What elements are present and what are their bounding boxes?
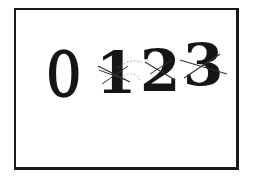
dotted-connector bbox=[118, 61, 142, 68]
strike-line-3b bbox=[184, 54, 220, 78]
strike-line-1c bbox=[102, 66, 128, 84]
strike-line-1b bbox=[99, 70, 126, 80]
strike-line-3a bbox=[180, 60, 227, 74]
strike-line-2a bbox=[145, 62, 175, 80]
dotted-connector-2 bbox=[124, 74, 140, 80]
strike-marks bbox=[0, 0, 256, 180]
